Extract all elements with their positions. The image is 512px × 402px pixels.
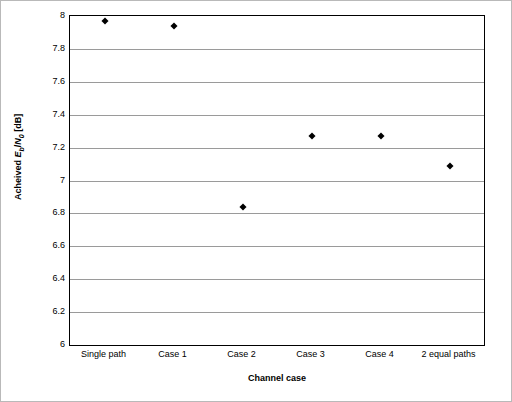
gridline — [70, 213, 484, 214]
y-axis-title-prefix: Acheived — [13, 157, 23, 200]
data-point — [239, 203, 246, 210]
y-axis-title-slash: / — [13, 145, 23, 148]
x-axis-tick-label: Single path — [81, 349, 126, 359]
data-point — [446, 162, 453, 169]
data-point — [170, 22, 177, 29]
y-axis-title: Acheived Eb/N0 [dB] — [13, 67, 25, 247]
y-axis-tick-label: 6.2 — [5, 307, 65, 316]
y-axis-tick-label: 6.4 — [5, 274, 65, 283]
data-point — [101, 17, 108, 24]
x-axis-title: Channel case — [69, 373, 485, 383]
y-axis-title-units: [dB] — [13, 114, 23, 135]
chart-figure: 66.26.46.66.877.27.47.67.88 Single pathC… — [0, 0, 512, 402]
gridline — [70, 49, 484, 50]
data-point — [308, 133, 315, 140]
gridline — [70, 115, 484, 116]
x-axis-tick-label: 2 equal paths — [421, 349, 475, 359]
gridline — [70, 82, 484, 83]
y-axis-title-eb-sub: b — [18, 147, 25, 151]
y-axis-tick-label: 7.8 — [5, 43, 65, 52]
y-axis-title-n0: N — [13, 138, 23, 145]
plot-area — [69, 15, 485, 346]
gridline — [70, 181, 484, 182]
data-point — [377, 133, 384, 140]
x-axis-tick-labels: Single pathCase 1Case 2Case 3Case 42 equ… — [69, 349, 485, 363]
y-axis-tick-label: 8 — [5, 11, 65, 20]
y-axis-tick-labels: 66.26.46.66.877.27.47.67.88 — [1, 15, 65, 346]
gridline — [70, 246, 484, 247]
x-axis-tick-label: Case 1 — [158, 349, 187, 359]
gridline — [70, 148, 484, 149]
gridline — [70, 279, 484, 280]
x-axis-tick-label: Case 2 — [227, 349, 256, 359]
x-axis-tick-label: Case 4 — [365, 349, 394, 359]
y-axis-title-eb: E — [13, 151, 23, 157]
x-axis-tick-label: Case 3 — [296, 349, 325, 359]
y-axis-title-n0-sub: 0 — [18, 134, 25, 138]
y-axis-tick-label: 6 — [5, 340, 65, 349]
gridline — [70, 312, 484, 313]
